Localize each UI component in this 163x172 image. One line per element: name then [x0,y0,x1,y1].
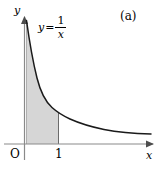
origin-label: O [10,148,20,160]
equation-equals-sign: = [45,22,54,33]
panel-label: (a) [120,10,137,22]
equation-left-side: y [38,22,44,33]
x-tick-label-1: 1 [55,148,63,160]
curve-equation-label: y = 1 x [38,15,66,40]
fraction-numerator: 1 [55,15,66,27]
graph-canvas [0,0,163,172]
x-axis-label: x [146,150,152,161]
y-axis-label: y [14,5,20,16]
equation-fraction: 1 x [55,15,66,40]
fraction-denominator: x [56,28,66,40]
figure-container: (a) y x O 1 y = 1 x [0,0,163,172]
